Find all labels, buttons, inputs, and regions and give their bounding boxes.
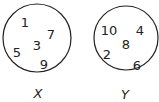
- set-x-label: X: [33, 86, 44, 101]
- set-x-element: 9: [40, 57, 48, 72]
- set-y-element: 10: [101, 23, 118, 38]
- set-y-element: 6: [133, 58, 141, 73]
- set-y: 10 4 8 2 6 Y: [94, 6, 158, 102]
- set-x-element: 1: [21, 15, 29, 30]
- set-y-label: Y: [121, 87, 130, 102]
- set-x-element: 7: [47, 27, 55, 42]
- set-x-element: 5: [13, 45, 21, 60]
- set-x-element: 3: [33, 38, 41, 53]
- set-y-element: 2: [103, 47, 111, 62]
- set-y-element: 4: [136, 23, 144, 38]
- set-y-element: 8: [122, 37, 130, 52]
- set-x: 1 7 3 5 9 X: [3, 4, 71, 101]
- set-diagram: 1 7 3 5 9 X 10 4 8 2 6 Y: [0, 0, 159, 102]
